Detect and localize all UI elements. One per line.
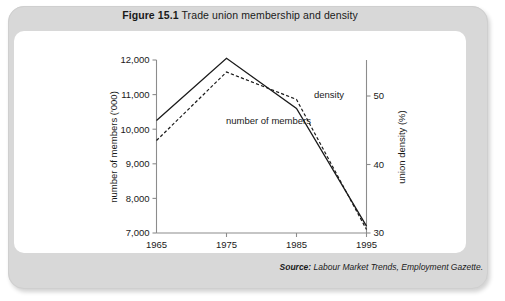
source-label: Source: [280,262,312,272]
figure-number: Figure 15.1 [122,9,179,21]
figure-white-panel [14,31,466,253]
figure-screenshot: Figure 15.1 Trade union membership and d… [0,0,505,301]
figure-title-text: Trade union membership and density [182,9,358,21]
figure-title: Figure 15.1 Trade union membership and d… [8,9,472,21]
source-text: Labour Market Trends, Employment Gazette… [314,262,483,272]
source-note: Source: Labour Market Trends, Employment… [280,262,483,272]
